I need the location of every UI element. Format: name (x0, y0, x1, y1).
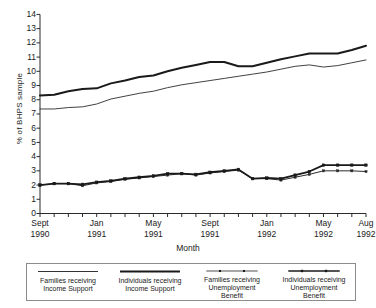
x-tick-year: 1991 (127, 229, 179, 240)
series-line-0 (40, 60, 366, 109)
series-marker-3 (237, 168, 240, 171)
x-axis-tick-label: Aug1992 (340, 218, 376, 239)
series-marker-3 (336, 164, 339, 167)
series-marker-3 (308, 170, 311, 173)
x-axis-tick-label: Sept1991 (184, 218, 236, 239)
series-marker-3 (251, 177, 254, 180)
series-marker-3 (110, 179, 113, 182)
series-marker-3 (223, 170, 226, 173)
x-tick-month: Sept (184, 218, 236, 229)
series-marker-3 (81, 183, 84, 186)
legend-label-line: Families receiving (40, 277, 96, 285)
series-marker-3 (166, 172, 169, 175)
series-marker-3 (138, 176, 141, 179)
series-line-3 (40, 165, 366, 185)
chart-figure: % of BHPS sample 01234567891011121314 Se… (0, 0, 376, 308)
series-marker-3 (95, 181, 98, 184)
x-axis-tick-label: May1991 (127, 218, 179, 239)
legend-marker (301, 270, 303, 272)
legend-label-line: Individuals receiving (282, 276, 345, 284)
legend-item[interactable]: Families receivingUnemploymentBenefit (191, 264, 273, 300)
x-tick-month: Jan (71, 218, 123, 229)
series-marker-3 (351, 164, 354, 167)
legend-label: Individuals receivingUnemploymentBenefit (282, 276, 345, 300)
series-marker-3 (53, 182, 56, 185)
legend-label-line: Families receiving (204, 276, 260, 284)
legend-line-sample (283, 268, 345, 274)
series-marker-2 (308, 173, 310, 175)
x-axis-tick-label: Jan1992 (241, 218, 293, 239)
series-marker-2 (351, 170, 353, 172)
legend-line-sample (201, 268, 263, 274)
x-tick-year: 1991 (71, 229, 123, 240)
legend-label-line: Unemployment (282, 284, 345, 292)
x-tick-month: Sept (14, 218, 66, 229)
series-marker-3 (195, 173, 198, 176)
series-marker-3 (265, 177, 268, 180)
series-marker-3 (280, 177, 283, 180)
x-tick-month: May (127, 218, 179, 229)
plot-area (0, 0, 376, 308)
x-axis-title: Month (0, 243, 376, 253)
series-marker-3 (152, 175, 155, 178)
legend-label-line: Income Support (40, 285, 96, 293)
legend-line-sample (37, 268, 99, 275)
series-marker-3 (365, 164, 368, 167)
legend-marker (219, 270, 221, 272)
chart-legend: Families receivingIncome SupportIndividu… (26, 263, 356, 301)
series-marker-3 (322, 164, 325, 167)
legend-marker (325, 270, 327, 272)
legend-line-sample (119, 268, 181, 275)
series-marker-3 (294, 174, 297, 177)
legend-marker (243, 270, 245, 272)
series-marker-2 (337, 170, 339, 172)
x-tick-month: Aug (340, 218, 376, 229)
x-axis-tick-label: Sept1990 (14, 218, 66, 239)
series-marker-3 (67, 182, 70, 185)
legend-label: Families receivingUnemploymentBenefit (204, 276, 260, 300)
legend-label: Individuals receivingIncome Support (118, 277, 181, 293)
legend-item[interactable]: Families receivingIncome Support (27, 264, 109, 300)
series-line-1 (40, 46, 366, 96)
series-marker-2 (365, 170, 367, 172)
legend-label-line: Income Support (118, 285, 181, 293)
x-tick-year: 1990 (14, 229, 66, 240)
series-marker-3 (39, 184, 42, 187)
legend-label-line: Individuals receiving (118, 277, 181, 285)
x-tick-year: 1991 (184, 229, 236, 240)
series-marker-3 (209, 171, 212, 174)
legend-label-line: Benefit (204, 292, 260, 300)
x-tick-year: 1992 (241, 229, 293, 240)
legend-label-line: Benefit (282, 292, 345, 300)
series-marker-2 (322, 170, 324, 172)
x-tick-year: 1992 (340, 229, 376, 240)
series-marker-3 (124, 177, 127, 180)
legend-item[interactable]: Individuals receivingIncome Support (109, 264, 191, 300)
legend-label-line: Unemployment (204, 284, 260, 292)
x-axis-tick-label: Jan1991 (71, 218, 123, 239)
x-tick-month: Jan (241, 218, 293, 229)
series-marker-3 (180, 172, 183, 175)
legend-label: Families receivingIncome Support (40, 277, 96, 293)
legend-item[interactable]: Individuals receivingUnemploymentBenefit (273, 264, 355, 300)
